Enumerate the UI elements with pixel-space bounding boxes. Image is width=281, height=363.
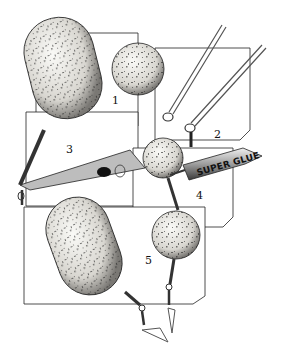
panel-number-3: 3 bbox=[66, 143, 73, 156]
panel-number-1: 1 bbox=[112, 94, 119, 107]
panel-number-5: 5 bbox=[145, 254, 152, 267]
panel-2-sheet bbox=[155, 48, 250, 140]
panel-number-4: 4 bbox=[196, 189, 203, 202]
panel-number-2: 2 bbox=[214, 128, 221, 141]
diagram-canvas: SUPER GLUE 1 2 3 4 5 bbox=[0, 0, 281, 363]
